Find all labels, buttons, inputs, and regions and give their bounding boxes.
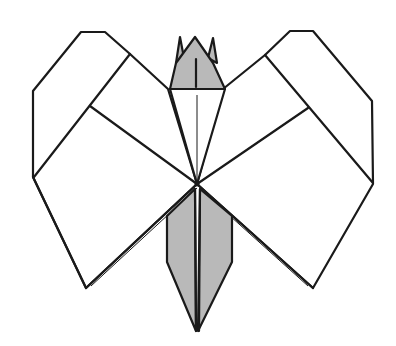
head <box>170 37 225 89</box>
body-center-right <box>199 189 200 331</box>
origami-butterfly-diagram: Origami butterfly (finished model) <box>0 0 396 346</box>
body <box>167 189 232 331</box>
body-center-left <box>195 189 196 331</box>
body-right-half <box>198 189 232 331</box>
body-left-half <box>167 189 196 331</box>
center-point <box>195 182 200 187</box>
